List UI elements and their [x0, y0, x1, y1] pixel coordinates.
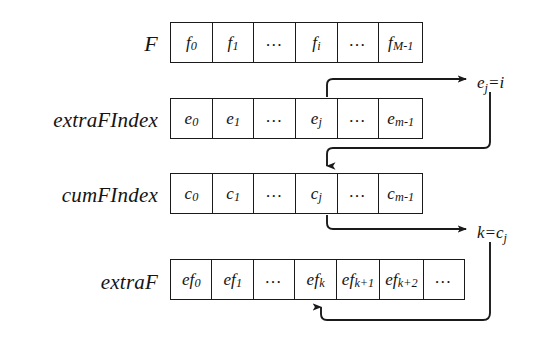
cell-cj: cj [296, 174, 338, 213]
diagram-canvas: F extraFIndex cumFIndex extraF f0f1…fi…f… [0, 0, 547, 343]
array-extraFIndex: e0e1…ej…em-1 [170, 98, 423, 139]
cell-f0: f0 [171, 23, 213, 62]
cell-fM-1: fM-1 [379, 23, 422, 62]
array-cumFIndex: c0c1…cj…cm-1 [170, 173, 423, 214]
cell-fi: fi [296, 23, 338, 62]
cell-c1: c1 [213, 174, 255, 213]
row-label-extraF: extraF [0, 272, 158, 293]
connector-cj-to-label [327, 215, 466, 229]
connector-ej-to-label [327, 79, 466, 97]
cell-e0: e0 [171, 99, 213, 138]
cell-efk+2: efk+2 [380, 260, 423, 299]
cell-ellipsis-6: … [424, 260, 464, 299]
cell-ellipsis-2: … [254, 260, 295, 299]
row-label-cumFIndex: cumFIndex [0, 185, 158, 206]
row-label-extraFIndex: extraFIndex [0, 110, 158, 131]
cell-e1: e1 [213, 99, 255, 138]
row-label-F: F [0, 33, 158, 55]
cell-f1: f1 [213, 23, 255, 62]
cell-efk+1: efk+1 [337, 260, 380, 299]
cell-ej: ej [296, 99, 338, 138]
cell-efk: efk [295, 260, 336, 299]
cell-ellipsis-2: … [254, 23, 296, 62]
cell-cm-1: cm-1 [379, 174, 422, 213]
cell-ellipsis-4: … [338, 174, 380, 213]
array-extraF: ef0ef1…efkefk+1efk+2… [170, 259, 465, 300]
cell-ellipsis-2: … [254, 99, 296, 138]
annotation-ej-equals-i: ej=i [477, 74, 504, 91]
cell-ellipsis-2: … [254, 174, 296, 213]
cell-em-1: em-1 [379, 99, 422, 138]
cell-ef1: ef1 [212, 260, 253, 299]
cell-c0: c0 [171, 174, 213, 213]
annotation-k-equals-cj: k=cj [477, 224, 507, 241]
cell-ef0: ef0 [171, 260, 212, 299]
cell-ellipsis-4: … [338, 23, 380, 62]
array-F: f0f1…fi…fM-1 [170, 22, 423, 63]
cell-ellipsis-4: … [338, 99, 380, 138]
